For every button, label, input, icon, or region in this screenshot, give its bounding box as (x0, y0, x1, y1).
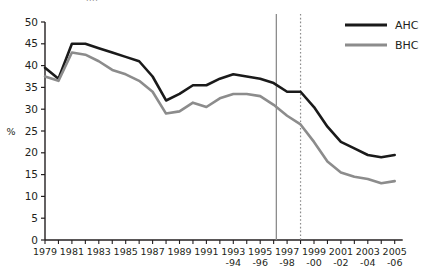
x-tick-label: 2005 (383, 246, 407, 257)
series-line-bhc (45, 53, 395, 184)
x-tick-label: 1991 (194, 246, 218, 257)
chart-legend: AHCBHC (345, 19, 419, 52)
x-tick-label: 2003 (356, 246, 380, 257)
x-tick-label: 1979 (33, 246, 57, 257)
x-tick-label: 1995 (248, 246, 272, 257)
x-tick-label-second-line: -06 (387, 257, 403, 267)
x-tick-label: 1987 (141, 246, 165, 257)
x-tick-label: 1983 (87, 246, 111, 257)
data-series (45, 44, 395, 184)
x-tick-label: 1993 (221, 246, 245, 257)
legend-label-bhc: BHC (395, 39, 419, 52)
x-tick-label: 1997 (275, 246, 299, 257)
x-tick-label-second-line: -02 (333, 257, 349, 267)
y-axis-title: % (6, 126, 15, 137)
chart-container: .... 05101520253035404550% 1979198119831… (0, 0, 431, 267)
y-tick-label: 25 (25, 125, 38, 137)
x-tick-label: 1989 (167, 246, 191, 257)
reference-lines (276, 14, 300, 240)
line-chart: 05101520253035404550% 197919811983198519… (0, 0, 431, 267)
y-axis: 05101520253035404550% (6, 16, 45, 246)
x-tick-label-second-line: -00 (306, 257, 322, 267)
y-tick-label: 15 (25, 168, 38, 180)
x-tick-label-second-line: -98 (279, 257, 295, 267)
y-tick-label: 0 (31, 234, 38, 246)
y-tick-label: 20 (25, 146, 38, 158)
x-tick-label: 1985 (114, 246, 138, 257)
y-tick-label: 30 (25, 103, 38, 115)
x-tick-label: 2001 (329, 246, 353, 257)
y-tick-label: 45 (25, 37, 38, 49)
x-axis: 19791981198319851987198919911993-941995-… (33, 240, 407, 267)
x-tick-label-second-line: -96 (252, 257, 268, 267)
y-tick-label: 5 (31, 212, 38, 224)
x-tick-label: 1981 (60, 246, 84, 257)
legend-label-ahc: AHC (395, 19, 419, 32)
y-tick-label: 40 (25, 59, 38, 71)
x-tick-label-second-line: -94 (226, 257, 242, 267)
y-tick-label: 50 (25, 16, 38, 28)
x-tick-label: 1999 (302, 246, 326, 257)
y-tick-label: 10 (25, 190, 38, 202)
y-tick-label: 35 (25, 81, 38, 93)
x-tick-label-second-line: -04 (360, 257, 376, 267)
